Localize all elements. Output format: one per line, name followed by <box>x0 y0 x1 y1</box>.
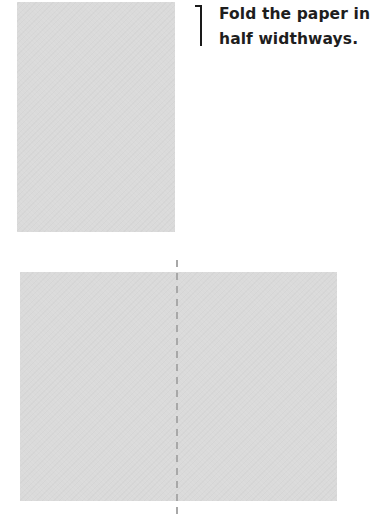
step-instruction: Fold the paper in half widthways. <box>219 2 370 52</box>
step-text-line-1: Fold the paper in <box>219 2 370 27</box>
step-text-line-2: half widthways. <box>219 27 370 52</box>
paper-sheet-portrait <box>17 2 175 232</box>
paper-sheet-landscape <box>20 272 337 501</box>
step-bracket-icon <box>195 5 202 46</box>
fold-line-dashed <box>176 260 178 515</box>
